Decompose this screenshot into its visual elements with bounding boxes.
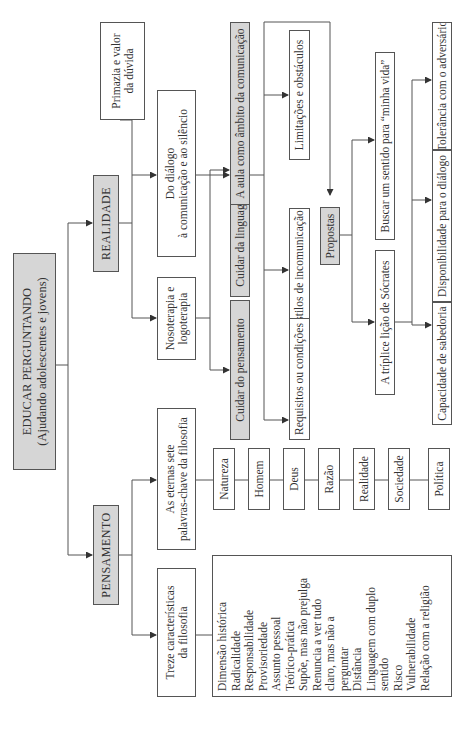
pensamento-node: PENSAMENTO bbox=[93, 505, 119, 605]
caracteristicas-list: Dimensão histórica Radicalidade Responsa… bbox=[212, 555, 452, 697]
estilos-node: Estilos de incomunicação bbox=[289, 208, 310, 330]
root-node: EDUCAR PERGUNTANDO (Ajudando adolescente… bbox=[13, 253, 56, 470]
keyword-politica: Política bbox=[428, 448, 450, 510]
char-item: Radicalidade bbox=[230, 561, 244, 691]
requisitos-node: Requisitos ou condições bbox=[289, 318, 310, 440]
char-item: Vulnerabilidade bbox=[405, 561, 419, 691]
cuidar-pensamento-node: Cuidar do pensamento bbox=[230, 300, 250, 440]
aula-node: A aula como âmbito da comunicação bbox=[230, 22, 250, 205]
sete-line1: As eternas sete bbox=[164, 445, 177, 514]
treze-line2: da filosofia bbox=[177, 606, 190, 658]
treze-node: Treze características da filosofia bbox=[157, 568, 196, 697]
buscar-node: Buscar um sentido para “minha vida” bbox=[375, 52, 395, 240]
char-item: Dimensão histórica bbox=[216, 561, 230, 691]
char-item: Distância bbox=[351, 561, 365, 691]
dialogo-node: Do diálogo à comunicação e ao silêncio bbox=[157, 90, 196, 257]
propostas-node: Propostas bbox=[320, 207, 340, 265]
root-title: EDUCAR PERGUNTANDO bbox=[20, 288, 35, 435]
capacidade-node: Capacidade de sabedoria bbox=[432, 302, 452, 425]
keyword-razao: Razão bbox=[318, 448, 340, 510]
char-item: Assunto pessoal bbox=[270, 561, 284, 691]
keyword-realidade: Realidade bbox=[353, 448, 375, 510]
nosoterapia-line1: Nosoterapia e bbox=[164, 287, 177, 351]
primazia-node: Primazia e valor da dúvida bbox=[100, 22, 145, 120]
char-item: Renuncia a ver tudo bbox=[311, 561, 325, 691]
nosoterapia-line2: logoterapia bbox=[177, 293, 190, 345]
triplice-node: A tríplice lição de Sócrates bbox=[375, 250, 395, 395]
char-item: Relação com a religião bbox=[419, 561, 433, 691]
char-item: Responsabilidade bbox=[243, 561, 257, 691]
realidade-node: REALIDADE bbox=[93, 175, 119, 272]
root-subtitle: (Ajudando adolescentes e jovens) bbox=[35, 277, 50, 445]
char-item: Provisoriedade bbox=[257, 561, 271, 691]
char-item: Linguagem com duplo bbox=[365, 561, 379, 691]
treze-line1: Treze características bbox=[164, 586, 177, 680]
nosoterapia-node: Nosoterapia e logoterapia bbox=[157, 277, 196, 360]
tolerancia-node: Tolerância com o adversário bbox=[432, 22, 452, 150]
keyword-deus: Deus bbox=[283, 448, 305, 510]
char-item: claro, mas não a bbox=[324, 561, 338, 691]
concept-map: EDUCAR PERGUNTANDO (Ajudando adolescente… bbox=[0, 0, 458, 730]
keyword-sociedade: Sociedade bbox=[388, 448, 410, 510]
keyword-natureza: Natureza bbox=[213, 448, 235, 510]
keyword-homem: Homem bbox=[248, 448, 270, 510]
primazia-line2: da dúvida bbox=[123, 48, 136, 93]
dialogo-line2: à comunicação e ao silêncio bbox=[177, 109, 190, 238]
char-item: Teórico-prática bbox=[284, 561, 298, 691]
sete-line2: palavras-chave da filosofia bbox=[177, 417, 190, 541]
char-item: Supõe, mas não prejulga bbox=[297, 561, 311, 691]
char-item: sentido bbox=[378, 561, 392, 691]
sete-palavras-node: As eternas sete palavras-chave da filoso… bbox=[157, 408, 196, 550]
limitacoes-node: Limitações e obstáculos bbox=[289, 30, 310, 160]
dialogo-line1: Do diálogo bbox=[164, 148, 177, 199]
disponibilidade-node: Disponibilidade para o diálogo bbox=[432, 150, 452, 302]
char-item: Risco bbox=[392, 561, 406, 691]
char-item: perguntar bbox=[338, 561, 352, 691]
primazia-line1: Primazia e valor bbox=[110, 33, 123, 108]
